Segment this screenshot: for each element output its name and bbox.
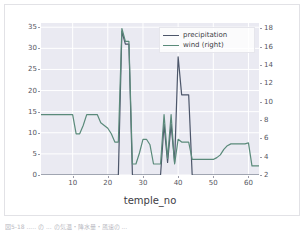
y-tick-mark-right — [260, 138, 262, 139]
legend-color-swatch-precipitation — [163, 35, 179, 36]
y-tick-label-right: 8 — [264, 117, 284, 124]
y-tick-mark-right — [260, 47, 262, 48]
y-tick-label-left: 20 — [19, 87, 37, 94]
x-tick-mark — [143, 176, 144, 178]
y-tick-label-left: 10 — [19, 129, 37, 136]
y-tick-mark-left — [38, 91, 40, 92]
x-tick-mark — [213, 176, 214, 178]
y-tick-label-right: 2 — [264, 172, 284, 179]
x-tick-label: 20 — [103, 180, 112, 187]
y-tick-mark-left — [38, 27, 40, 28]
y-tick-mark-left — [38, 69, 40, 70]
x-tick-mark — [248, 176, 249, 178]
x-tick-label: 40 — [174, 180, 183, 187]
chart-legend: precipitation wind (right) — [159, 27, 255, 53]
y-tick-mark-right — [260, 157, 262, 158]
y-tick-mark-left — [38, 133, 40, 134]
y-tick-mark-left — [38, 112, 40, 113]
y-tick-mark-right — [260, 120, 262, 121]
plot-area: precipitation wind (right) — [41, 23, 259, 175]
y-tick-mark-right — [260, 65, 262, 66]
x-tick-label: 30 — [138, 180, 147, 187]
legend-label-precipitation: precipitation — [183, 30, 227, 40]
legend-label-wind: wind (right) — [183, 40, 224, 50]
y-tick-mark-right — [260, 83, 262, 84]
y-tick-label-right: 14 — [264, 62, 284, 69]
x-tick-label: 10 — [68, 180, 77, 187]
y-tick-mark-left — [38, 48, 40, 49]
y-tick-mark-left — [38, 175, 40, 176]
y-tick-mark-right — [260, 28, 262, 29]
y-tick-mark-left — [38, 154, 40, 155]
y-tick-label-left: 35 — [19, 24, 37, 31]
y-tick-label-left: 30 — [19, 45, 37, 52]
x-tick-mark — [178, 176, 179, 178]
figure-caption: 図5-18 ..... の ... の気温・降水量・風速の ... — [5, 223, 299, 231]
legend-color-swatch-wind — [163, 45, 179, 46]
y-tick-label-left: 0 — [19, 172, 37, 179]
x-tick-mark — [73, 176, 74, 178]
x-tick-mark — [108, 176, 109, 178]
legend-item-precipitation: precipitation — [163, 30, 251, 40]
y-tick-label-right: 16 — [264, 43, 284, 50]
x-axis-label: temple_no — [41, 195, 259, 206]
y-tick-label-right: 10 — [264, 98, 284, 105]
y-tick-label-right: 6 — [264, 135, 284, 142]
y-tick-label-left: 25 — [19, 66, 37, 73]
y-tick-label-right: 4 — [264, 153, 284, 160]
legend-item-wind: wind (right) — [163, 40, 251, 50]
y-tick-label-left: 5 — [19, 150, 37, 157]
y-tick-label-right: 18 — [264, 25, 284, 32]
y-tick-mark-right — [260, 102, 262, 103]
y-tick-mark-right — [260, 175, 262, 176]
y-tick-label-left: 15 — [19, 108, 37, 115]
y-tick-label-right: 12 — [264, 80, 284, 87]
x-tick-label: 60 — [244, 180, 253, 187]
x-tick-label: 50 — [209, 180, 218, 187]
figure-panel: precipitation wind (right) 0510152025303… — [4, 4, 300, 216]
